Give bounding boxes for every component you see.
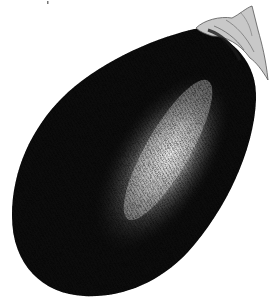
- eggplant-illustration: [0, 0, 270, 306]
- print-mark: [47, 1, 49, 4]
- eggplant-graphic: [0, 0, 270, 306]
